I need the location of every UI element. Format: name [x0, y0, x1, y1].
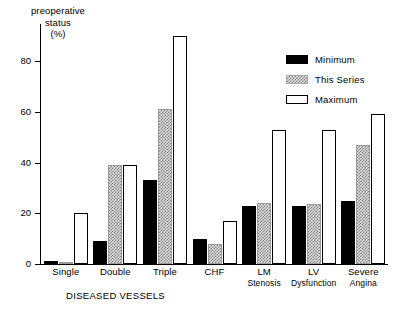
x-axis-tick-label: CHF — [190, 267, 240, 288]
y-axis-tick-label: 80 — [20, 55, 31, 66]
bar-minimum[interactable] — [292, 206, 306, 264]
x-axis-tick-label-line: CHF — [190, 267, 240, 278]
bar-minimum[interactable] — [242, 206, 256, 264]
x-axis-tick-label-line: Angina — [338, 278, 388, 289]
x-axis-line — [40, 264, 388, 265]
bar-maximum[interactable] — [322, 130, 336, 264]
legend-swatch-series — [286, 75, 308, 84]
legend-label: Maximum — [315, 94, 358, 105]
x-axis-title: DISEASED VESSELS — [41, 290, 190, 301]
x-axis-tick-label: Triple — [140, 267, 190, 288]
x-axis-tick-label-line: Dysfunction — [289, 278, 339, 289]
bar-series[interactable] — [257, 203, 271, 264]
legend-label: This Series — [315, 74, 365, 85]
bar-minimum[interactable] — [44, 261, 58, 264]
x-axis-tick-label: Double — [91, 267, 141, 288]
bar-maximum[interactable] — [223, 221, 237, 264]
x-axis-tick-label: LVDysfunction — [289, 267, 339, 288]
bar-series[interactable] — [108, 165, 122, 264]
bar-series[interactable] — [158, 109, 172, 264]
x-axis-tick-label-line: Severe — [338, 267, 388, 278]
bar-series[interactable] — [208, 244, 222, 264]
bar-maximum[interactable] — [74, 213, 88, 264]
bar-minimum[interactable] — [193, 239, 207, 264]
bar-group — [91, 24, 141, 264]
y-axis-title-line-1: preoperative — [6, 5, 110, 17]
y-axis-tick-label: 0 — [26, 258, 31, 269]
x-axis-tick-label-line: LV — [289, 267, 339, 278]
bar-group — [239, 24, 289, 264]
x-axis-tick-label: Single — [41, 267, 91, 288]
legend-swatch-minimum — [286, 55, 308, 64]
bar-maximum[interactable] — [272, 130, 286, 264]
bar-maximum[interactable] — [371, 114, 385, 264]
legend-item[interactable]: Minimum — [286, 54, 365, 65]
x-axis-tick-label-line: Single — [41, 267, 91, 278]
bar-minimum[interactable] — [341, 201, 355, 264]
x-axis-tick-label-line: Triple — [140, 267, 190, 278]
x-axis-tick-label-line: LM — [239, 267, 289, 278]
x-axis-tick-label: SevereAngina — [338, 267, 388, 288]
bar-maximum[interactable] — [173, 36, 187, 264]
y-axis-tick-label: 20 — [20, 207, 31, 218]
y-axis-tick-label: 60 — [20, 106, 31, 117]
x-axis-tick-label: LMStenosis — [239, 267, 289, 288]
x-axis-tick-label-line: Double — [91, 267, 141, 278]
y-axis-tick-label: 40 — [20, 157, 31, 168]
bar-group — [190, 24, 240, 264]
bar-minimum[interactable] — [93, 241, 107, 264]
legend-item[interactable]: Maximum — [286, 94, 365, 105]
x-axis-tick-label-line: Stenosis — [239, 278, 289, 289]
bar-minimum[interactable] — [143, 180, 157, 264]
bar-group — [140, 24, 190, 264]
y-axis-tick: 0 — [35, 264, 41, 265]
legend-label: Minimum — [315, 54, 355, 65]
bar-series[interactable] — [59, 262, 73, 264]
bar-series[interactable] — [307, 204, 321, 264]
bar-maximum[interactable] — [123, 165, 137, 264]
chart-legend: MinimumThis SeriesMaximum — [286, 54, 365, 105]
bar-group — [41, 24, 91, 264]
legend-swatch-maximum — [286, 95, 308, 104]
bar-chart-figure: preoperative status (%) 020406080 Single… — [0, 0, 395, 314]
bar-series[interactable] — [356, 145, 370, 264]
x-axis-tick-labels: SingleDoubleTripleCHFLMStenosisLVDysfunc… — [41, 267, 388, 288]
legend-item[interactable]: This Series — [286, 74, 365, 85]
